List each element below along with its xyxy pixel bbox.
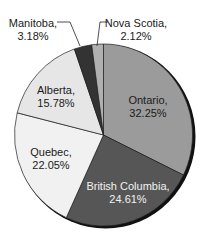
manitoba-leader-line <box>57 22 80 46</box>
pie-slices <box>14 44 192 226</box>
manitoba-label: Manitoba, <box>9 17 57 29</box>
quebec-pct: 22.05% <box>32 159 70 171</box>
bc-pct: 24.61% <box>109 193 147 205</box>
ontario-pct: 32.25% <box>129 107 167 119</box>
alberta-label: Alberta, <box>37 84 75 96</box>
novascotia-pct: 2.12% <box>120 30 151 42</box>
manitoba-pct: 3.18% <box>17 30 48 42</box>
quebec-label: Quebec, <box>30 146 72 158</box>
pie-chart: Manitoba, 3.18% Nova Scotia, 2.12% Alber… <box>0 0 208 240</box>
bc-label: British Columbia, <box>86 180 169 192</box>
novascotia-label: Nova Scotia, <box>105 17 167 29</box>
ontario-label: Ontario, <box>128 94 167 106</box>
alberta-pct: 15.78% <box>37 97 75 109</box>
